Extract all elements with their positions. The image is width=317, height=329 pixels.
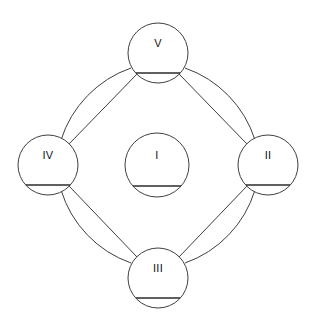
node-left[interactable]: IV [18,135,78,195]
chord-edge-top-right [179,74,247,144]
arc-edge-bottom-left [61,190,131,263]
node-center-label: I [155,149,158,161]
node-left-circle[interactable] [18,135,78,195]
node-bottom[interactable]: III [128,248,188,308]
chord-edge-left-top [69,74,137,144]
chord-edge-bottom-left [69,186,137,257]
node-top-label: V [154,37,162,49]
arc-edge-top-right [185,68,255,140]
node-top-circle[interactable] [128,23,188,83]
diagram-canvas: I II III IV V [0,0,317,329]
chord-edge-right-bottom [179,186,247,257]
node-center[interactable]: I [125,133,189,197]
arc-edge-right-bottom [185,190,255,263]
node-right[interactable]: II [238,135,298,195]
ring-diagram: I II III IV V [0,0,317,329]
node-left-label: IV [43,149,54,161]
node-top[interactable]: V [128,23,188,83]
node-right-label: II [265,149,272,161]
node-center-circle[interactable] [125,133,189,197]
arc-edge-left-top [61,68,131,140]
node-group: I II III IV V [18,23,298,308]
node-bottom-circle[interactable] [128,248,188,308]
node-right-circle[interactable] [238,135,298,195]
node-bottom-label: III [153,262,163,274]
